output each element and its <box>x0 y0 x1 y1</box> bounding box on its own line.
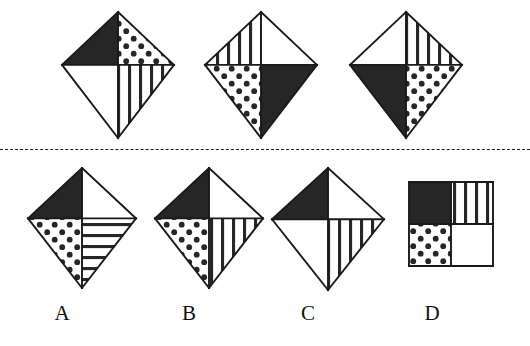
option-figure-c[interactable] <box>272 168 384 290</box>
option-figure-a[interactable] <box>28 168 136 288</box>
figure-canvas: A B C D <box>0 0 530 346</box>
dashed-separator <box>0 149 530 150</box>
stem-figure-1 <box>62 12 174 138</box>
option-label-d: D <box>412 303 452 324</box>
stem-figure-2 <box>205 12 317 138</box>
option-figure-b[interactable] <box>155 168 263 288</box>
stem-figure-3 <box>350 12 462 138</box>
option-label-b: B <box>169 303 209 324</box>
option-label-a: A <box>42 303 82 324</box>
option-figure-d[interactable] <box>409 182 493 266</box>
option-label-c: C <box>288 303 328 324</box>
